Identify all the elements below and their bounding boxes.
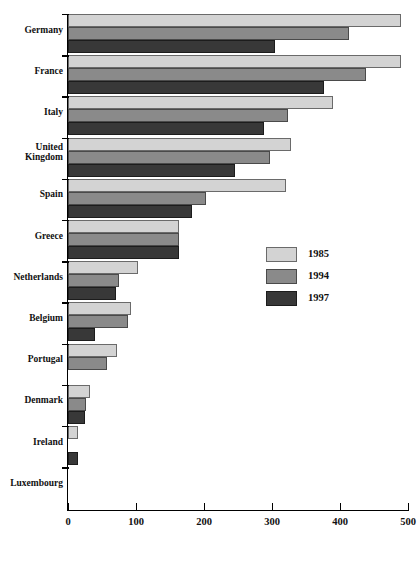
y-tick-portugal	[62, 344, 69, 345]
y-label-france: France	[0, 66, 63, 77]
y-label-united-kingdom: UnitedKingdom	[0, 142, 63, 163]
y-tick-luxembourg	[62, 467, 69, 468]
bar-greece-1985	[68, 220, 179, 233]
y-tick-belgium	[62, 302, 69, 303]
legend-label-1985: 1985	[308, 248, 329, 259]
bar-spain-1994	[68, 192, 206, 205]
bar-italy-1997	[68, 122, 264, 135]
bar-italy-1985	[68, 96, 333, 109]
legend-swatch-1994	[266, 269, 297, 284]
x-tick-200	[204, 503, 205, 511]
y-label-ireland: Ireland	[0, 437, 63, 448]
x-label-100: 100	[116, 516, 156, 527]
legend-swatch-1985	[266, 247, 297, 262]
bar-france-1994	[68, 68, 366, 81]
bar-greece-1994	[68, 233, 179, 246]
y-label-spain: Spain	[0, 189, 63, 200]
y-tick-greece	[62, 220, 69, 221]
x-label-200: 200	[184, 516, 224, 527]
bar-germany-1997	[68, 40, 275, 53]
y-label-netherlands: Netherlands	[0, 272, 63, 283]
x-tick-300	[272, 503, 273, 511]
y-label-italy: Italy	[0, 107, 63, 118]
y-label-germany: Germany	[0, 25, 63, 36]
y-label-portugal: Portugal	[0, 354, 63, 365]
y-label-denmark: Denmark	[0, 395, 63, 406]
x-label-300: 300	[252, 516, 292, 527]
y-tick-germany	[62, 14, 69, 15]
legend-label-1994: 1994	[308, 270, 329, 281]
bar-denmark-1997	[68, 411, 85, 424]
x-tick-400	[340, 503, 341, 511]
x-axis-line	[67, 510, 408, 511]
x-label-0: 0	[48, 516, 88, 527]
y-label-luxembourg: Luxembourg	[0, 478, 63, 489]
bar-denmark-1985	[68, 385, 90, 398]
y-tick-netherlands	[62, 261, 69, 262]
x-tick-100	[136, 503, 137, 511]
legend-swatch-1997	[266, 291, 297, 306]
bar-germany-1994	[68, 27, 349, 40]
bar-spain-1997	[68, 205, 192, 218]
x-tick-0	[68, 503, 69, 511]
bar-greece-1997	[68, 246, 179, 259]
bar-united-kingdom-1985	[68, 138, 291, 151]
bar-netherlands-1985	[68, 261, 138, 274]
bar-belgium-1997	[68, 328, 95, 341]
y-tick-spain	[62, 179, 69, 180]
y-tick-united-kingdom	[62, 138, 69, 139]
legend-label-1997: 1997	[308, 292, 329, 303]
bar-belgium-1994	[68, 315, 128, 328]
bar-chart: GermanyFranceItalyUnitedKingdomSpainGree…	[0, 0, 417, 568]
bar-germany-1985	[68, 14, 401, 27]
bar-belgium-1985	[68, 302, 131, 315]
bar-ireland-1997	[68, 452, 78, 465]
y-label-belgium: Belgium	[0, 313, 63, 324]
y-tick-denmark	[62, 385, 69, 386]
bar-italy-1994	[68, 109, 288, 122]
bar-united-kingdom-1994	[68, 151, 270, 164]
bar-spain-1985	[68, 179, 286, 192]
bar-portugal-1985	[68, 344, 117, 357]
bar-france-1985	[68, 55, 401, 68]
bar-netherlands-1997	[68, 287, 116, 300]
y-tick-italy	[62, 96, 69, 97]
bar-france-1997	[68, 81, 324, 94]
x-label-400: 400	[320, 516, 360, 527]
bar-denmark-1994	[68, 398, 86, 411]
x-label-500: 500	[388, 516, 417, 527]
y-label-greece: Greece	[0, 231, 63, 242]
bar-ireland-1985	[68, 426, 78, 439]
plot-area	[68, 14, 408, 507]
y-tick-ireland	[62, 426, 69, 427]
bar-portugal-1994	[68, 357, 107, 370]
bar-netherlands-1994	[68, 274, 119, 287]
bar-united-kingdom-1997	[68, 164, 235, 177]
y-tick-france	[62, 55, 69, 56]
x-tick-500	[408, 503, 409, 511]
